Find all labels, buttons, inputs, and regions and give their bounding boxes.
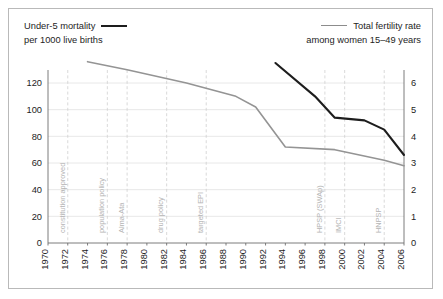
y-tick-left: 100 [26, 105, 42, 115]
x-axis-ticklabels: 1970197219741976197819801982198419861988… [40, 249, 406, 270]
y-tick-right: 1 [411, 212, 416, 222]
y-tick-left: 40 [32, 185, 42, 195]
x-tick-label: 1994 [277, 249, 287, 270]
x-tick-label: 2002 [356, 249, 366, 270]
y-axis-right-ticklabels: 0123456 [411, 78, 416, 248]
series-line-fertility-rate [88, 62, 404, 166]
x-tick-label: 1998 [317, 249, 327, 270]
x-tick-label: 1972 [60, 249, 70, 270]
line-chart: 020406080100120 0123456 1970197219741976… [0, 0, 443, 299]
chart-screenshot: Under-5 mortality per 1000 live births T… [0, 0, 443, 299]
event-annotation: HNPSP [374, 207, 383, 233]
x-tick-label: 2004 [376, 249, 386, 270]
x-tick-label: 1996 [297, 249, 307, 270]
event-annotation: population policy [97, 178, 106, 233]
y-tick-right: 5 [411, 105, 416, 115]
x-tick-label: 1978 [119, 249, 129, 270]
event-annotation-labels: constitution approvedpopulation policyAl… [58, 163, 383, 233]
x-tick-label: 2006 [396, 249, 406, 270]
y-tick-left: 60 [32, 158, 42, 168]
x-tick-label: 1982 [159, 249, 169, 270]
x-tick-label: 1984 [178, 249, 188, 270]
x-tick-label: 1974 [80, 249, 90, 270]
y-tick-right: 2 [411, 185, 416, 195]
x-tick-label: 1990 [238, 249, 248, 270]
y-tick-right: 6 [411, 78, 416, 88]
x-tick-label: 1970 [40, 249, 50, 270]
chart-svg: 020406080100120 0123456 1970197219741976… [0, 0, 443, 299]
event-marker-lines [68, 70, 384, 243]
x-tick-label: 1980 [139, 249, 149, 270]
y-tick-right: 0 [411, 238, 416, 248]
event-annotation: HPSP (SWAp) [315, 185, 324, 233]
series-line-under5-mortality [275, 63, 404, 155]
y-tick-right: 3 [411, 158, 416, 168]
event-annotation: targeted EPI [196, 192, 205, 233]
data-series-lines [88, 62, 404, 166]
x-tick-label: 2000 [337, 249, 347, 270]
event-annotation: constitution approved [58, 163, 67, 233]
y-tick-left: 80 [32, 132, 42, 142]
x-tick-label: 1986 [198, 249, 208, 270]
event-annotation: IMCI [334, 217, 343, 233]
y-axis-left-ticklabels: 020406080100120 [26, 78, 42, 248]
event-annotation: drug policy [156, 197, 165, 233]
x-tick-label: 1976 [99, 249, 109, 270]
y-tick-right: 4 [411, 132, 416, 142]
x-tick-label: 1992 [258, 249, 268, 270]
y-tick-left: 120 [26, 78, 42, 88]
event-annotation: Alma-Ata [117, 202, 126, 233]
x-tick-label: 1988 [218, 249, 228, 270]
y-tick-left: 0 [37, 238, 42, 248]
y-tick-left: 20 [32, 212, 42, 222]
